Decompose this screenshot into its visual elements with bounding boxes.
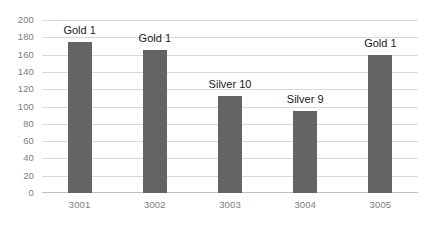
bar-label-3002: Gold 1 <box>139 33 171 44</box>
bar-3001 <box>68 42 92 193</box>
bar-3003 <box>218 96 242 193</box>
bar-label-3005: Gold 1 <box>364 38 396 49</box>
bar-label-3001: Gold 1 <box>63 25 95 36</box>
gridline <box>42 55 418 56</box>
gridline <box>42 72 418 73</box>
bar-label-3003: Silver 10 <box>209 79 252 90</box>
bar-3005 <box>368 55 392 193</box>
y-tick: 160 <box>18 50 34 60</box>
bar-3002 <box>143 50 167 193</box>
y-tick: 40 <box>23 154 34 164</box>
gridline <box>42 37 418 38</box>
y-tick: 180 <box>18 33 34 43</box>
bar-chart: Gold 1 Gold 1 Silver 10 Silver 9 Gold 1 … <box>0 0 430 227</box>
x-tick-3004: 3004 <box>294 200 316 210</box>
y-tick: 120 <box>18 84 34 94</box>
y-tick: 200 <box>18 15 34 25</box>
bar-3004 <box>293 111 317 193</box>
x-axis: 3001 3002 3003 3004 3005 <box>42 196 418 218</box>
bar-label-3004: Silver 9 <box>287 94 324 105</box>
y-tick: 100 <box>18 102 34 112</box>
y-tick: 20 <box>23 171 34 181</box>
y-tick: 140 <box>18 67 34 77</box>
gridline <box>42 20 418 21</box>
x-tick-3005: 3005 <box>370 200 392 210</box>
y-axis: 200 180 160 140 120 100 80 60 40 20 0 <box>0 20 38 193</box>
x-tick-3003: 3003 <box>219 200 241 210</box>
y-tick: 0 <box>29 188 34 198</box>
y-tick: 60 <box>23 136 34 146</box>
y-tick: 80 <box>23 119 34 129</box>
x-tick-3001: 3001 <box>69 200 91 210</box>
plot-area: Gold 1 Gold 1 Silver 10 Silver 9 Gold 1 <box>42 20 418 193</box>
x-tick-3002: 3002 <box>144 200 166 210</box>
